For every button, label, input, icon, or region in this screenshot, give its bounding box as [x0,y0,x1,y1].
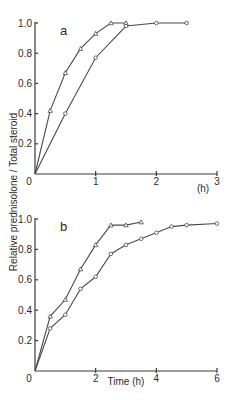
y-tick-label: 0.6 [18,78,32,89]
circle-marker-icon [139,237,143,241]
x-tick-label: 6 [214,373,220,384]
panel-label: b [60,219,67,234]
circle-marker-icon [64,313,68,317]
triangle-marker-icon [139,220,143,224]
circle-marker-icon [124,243,128,247]
y-tick-label: 0.6 [18,274,32,285]
triangle-marker-icon [48,108,52,112]
circle-marker-icon [185,21,189,25]
triangle-marker-icon [124,223,128,227]
circle-marker-icon [94,275,98,279]
y-tick-label: 0.4 [18,108,32,119]
x-tick-label: 2 [154,176,160,187]
x-tick-label: 0 [26,373,32,384]
circle-marker-icon [94,56,98,60]
y-tick-label: 0.4 [18,305,32,316]
x-tick-label: 1 [93,176,99,187]
x-tick-label: 2 [93,373,99,384]
circle-marker-icon [185,223,189,227]
figure: Relative prednisolone / Total steroid 0.… [0,0,235,400]
circle-marker-icon [155,21,159,25]
circle-marker-icon [155,231,159,235]
x-tick-label: 4 [154,373,160,384]
circle-marker-icon [215,222,219,226]
x-axis-label: Time (h) [108,376,145,387]
y-tick-label: 0.8 [18,48,32,59]
x-tick-label: 3 [214,176,220,187]
y-tick-label: 0.2 [18,138,32,149]
x-axis-label: (h) [197,183,209,194]
chart-panel-b: 0.20.40.60.81.00246Time (h)b [18,214,220,388]
triangle-marker-icon [109,223,113,227]
y-tick-label: 1.0 [18,214,32,225]
circle-marker-icon [64,112,68,116]
circle-marker-icon [124,24,128,28]
chart-panel-a: 0.20.40.60.81.00123(h)a [18,18,220,195]
y-tick-label: 0.8 [18,244,32,255]
y-tick-label: 0.2 [18,335,32,346]
circle-marker-icon [170,225,174,229]
circle-marker-icon [109,252,113,256]
y-tick-label: 1.0 [18,18,32,29]
series-line-circle [35,23,187,174]
x-tick-label: 0 [26,176,32,187]
triangle-marker-icon [63,297,67,301]
circle-marker-icon [79,287,83,291]
triangle-marker-icon [109,21,113,25]
panel-label: a [60,23,68,38]
circle-marker-icon [48,327,52,331]
